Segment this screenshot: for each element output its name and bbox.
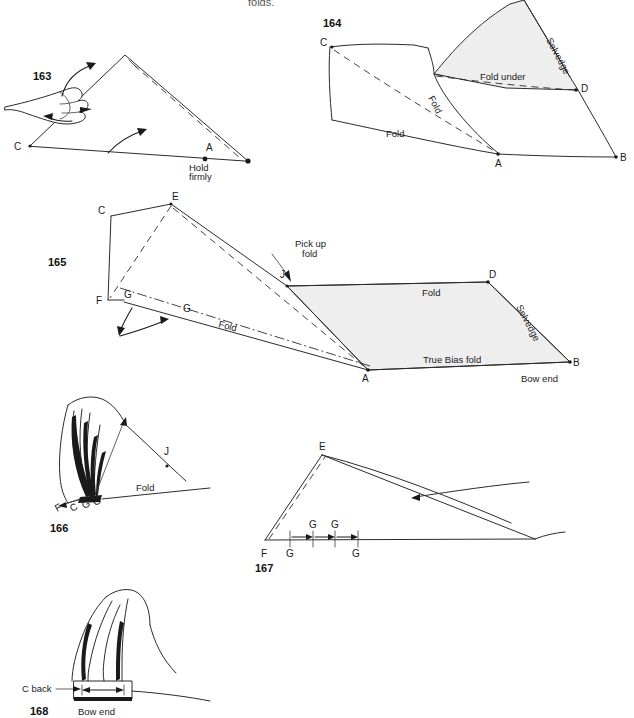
fig165-edge-cf (108, 216, 111, 300)
fig164-bottom-right-edge (498, 154, 616, 157)
fig165-point-j-dot (286, 285, 289, 288)
fig163-number: 163 (33, 70, 51, 82)
fig168-number: 168 (30, 705, 48, 717)
fig164-point-d-dot (574, 88, 578, 92)
fig163-arrow-mid-head (137, 128, 147, 136)
fig165-arrow-g-right-head (160, 316, 169, 324)
figure-163: C A Hold firmly 163 (0, 18, 300, 183)
fig167-tail-right (535, 532, 565, 539)
fig167-label-f: F (261, 548, 267, 559)
fig163-dashed-fold (134, 65, 240, 158)
illustration-sheet: folds. C A Hold firmly 163 (0, 0, 634, 718)
fig164-label-fold-under: Fold under (480, 71, 525, 82)
fig164-top-edge (330, 44, 428, 48)
fig163-label-firmly: firmly (189, 171, 212, 182)
fig168-label-bow-end: Bow end (78, 706, 115, 717)
fig168-arrow-dark-1 (81, 623, 92, 681)
fig166-label-j: J (164, 446, 169, 457)
fig166-top-curve (68, 397, 126, 425)
fig167-label-g-below-2: G (352, 548, 360, 559)
fig163-label-a: A (206, 142, 213, 153)
fig166-label-fold: Fold (136, 482, 154, 493)
fig165-label-c: C (98, 205, 105, 216)
page-top-cut-text: folds. (248, 0, 274, 6)
fig168-inner-fold-2 (88, 601, 112, 681)
fig168-cback-pointer-head (73, 686, 81, 692)
figure-165: C E F G G J A B D Pick up fold Fold Fold… (40, 190, 634, 395)
fig167-number: 167 (255, 562, 273, 574)
fig167-meas-arrow-2-head (328, 534, 335, 540)
fig168-arrow-dark-2 (116, 621, 124, 681)
fig167-label-g-below-1: G (286, 548, 294, 559)
fig165-label-g2: G (183, 303, 191, 314)
fig167-label-g-above-2: G (331, 519, 339, 530)
fig165-label-j: J (280, 269, 285, 280)
fig168-tail-line (132, 691, 210, 701)
fig164-point-c-dot (331, 46, 334, 49)
fig167-upper-tail (415, 482, 529, 497)
fig166-number: 166 (50, 522, 68, 534)
fig163-point-right-dot (245, 158, 250, 163)
fig168-meas-arrow-head-left (82, 687, 90, 693)
fig165-point-a-dot (366, 368, 370, 372)
fig165-label-true-bias: True Bias fold (423, 354, 481, 365)
fig167-baseline (265, 539, 535, 540)
fig165-label-e: E (172, 191, 179, 202)
fig167-edge-e-curve (322, 455, 511, 523)
fig166-outer-left (59, 405, 68, 503)
fig164-left-edge (329, 47, 332, 120)
figure-164: C A B D Fold Fold Fold under Selvedge 16… (310, 0, 634, 180)
fig165-label-bow-end: Bow end (521, 373, 558, 384)
fig167-label-g-above-1: G (309, 519, 317, 530)
fig165-label-fold-top: Fold (422, 287, 440, 298)
fig163-arrow-up-head (86, 62, 96, 70)
fig164-label-b: B (620, 152, 627, 163)
figure-168: C back Bow end 168 (20, 575, 240, 718)
fig165-point-b-dot (568, 360, 572, 364)
fig164-bottom-left-edge (332, 120, 498, 154)
fig163-arrow-mid (108, 131, 142, 153)
fig165-edge-ce (111, 204, 171, 216)
figure-167: E F G G G G 167 (245, 435, 585, 575)
fig167-edge-e-right (322, 455, 535, 539)
fig165-label-f: F (96, 295, 102, 306)
fig165-arrow-g-right (120, 321, 164, 336)
fig167-meas-arrow-3-head (351, 534, 358, 540)
fig166-right-fall (126, 425, 186, 481)
fig167-tail-arrow (411, 494, 420, 501)
fig164-label-a: A (495, 158, 502, 169)
fig163-point-a-dot (203, 157, 208, 162)
fig164-label-c: C (320, 37, 327, 48)
fig166-arrow-up-head (120, 417, 127, 426)
fig165-point-d-dot (486, 280, 490, 284)
fig164-number: 164 (323, 17, 342, 29)
fig164-label-fold-diag: Fold (426, 94, 444, 115)
fig165-dashed-ef (110, 206, 171, 298)
fig168-meas-arrow-head (116, 687, 124, 693)
fig163-hand (5, 88, 88, 124)
fig165-label-pickup-2: fold (302, 248, 317, 259)
fig168-right-fall (150, 625, 176, 673)
fig163-label-c: C (14, 141, 21, 152)
fig165-point-e-dot (170, 203, 173, 206)
fig166-label-c: C (68, 501, 80, 514)
fig166-label-f: F (53, 501, 64, 514)
fig166-point-j-dot (165, 464, 168, 467)
fig164-point-a-dot (496, 152, 500, 156)
fig165-label-fold-left: Fold (218, 318, 239, 333)
fig164-point-b-dot (614, 155, 618, 159)
fig165-label-d: D (489, 269, 496, 280)
fig166-arrow-up-line (96, 421, 124, 493)
fig164-selvedge-edge (578, 90, 616, 157)
fig167-label-e: E (319, 441, 326, 452)
fig165-label-g1: G (124, 289, 132, 300)
fig166-fold-line (102, 488, 210, 499)
fig163-point-c-dot (28, 144, 31, 147)
fig168-label-c-back: C back (22, 683, 52, 694)
figure-166: J F C G G Fold 166 (40, 385, 240, 540)
fig165-label-a: A (362, 373, 369, 384)
fig164-label-d: D (581, 83, 588, 94)
fig168-inner-fold-3 (122, 599, 128, 681)
fig168-bow-end-edge (74, 697, 132, 701)
fig168-top-loop (106, 590, 150, 625)
